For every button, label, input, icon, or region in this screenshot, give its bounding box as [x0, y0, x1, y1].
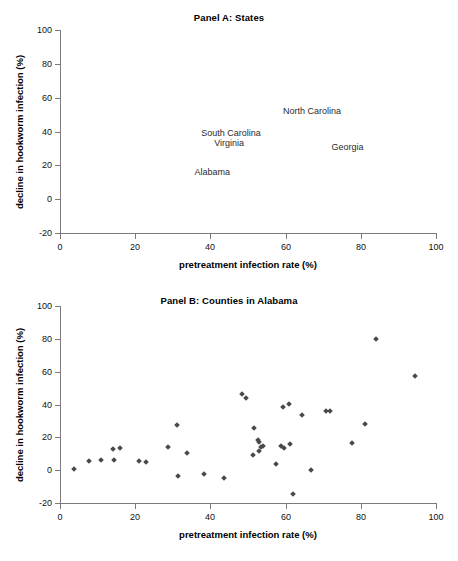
panel-b-y-axis-line — [60, 306, 61, 504]
panel-a-y-tick — [55, 98, 60, 99]
panel-a-x-tick — [286, 234, 287, 239]
scatter-point — [281, 445, 287, 451]
panel-a-plot-area: -20020406080100020406080100North Carolin… — [60, 30, 436, 233]
scatter-point — [221, 475, 227, 481]
scatter-point — [290, 492, 296, 498]
panel-b-y-tick — [55, 405, 60, 406]
scatter-point — [280, 404, 286, 410]
panel-b-x-tick-label: 20 — [130, 512, 140, 522]
panel-a-x-axis-line — [60, 233, 437, 234]
scatter-point — [273, 462, 279, 468]
scatter-point — [176, 474, 182, 480]
panel-b-x-tick — [361, 504, 362, 509]
scatter-point — [299, 412, 305, 418]
state-label: South Carolina — [201, 128, 261, 138]
scatter-point — [201, 471, 207, 477]
scatter-point — [288, 441, 294, 447]
panel-b-x-tick — [286, 504, 287, 509]
scatter-point — [349, 440, 355, 446]
panel-b-y-tick-label: -20 — [12, 498, 52, 508]
panel-a-x-tick — [210, 234, 211, 239]
scatter-point — [184, 450, 190, 456]
panel-b-y-axis-title: decline in hookworm infection (%) — [14, 327, 25, 481]
panel-b-x-axis-title: pretreatment infection rate (%) — [179, 529, 317, 540]
panel-a-x-tick — [135, 234, 136, 239]
panel-a-x-tick-label: 20 — [130, 242, 140, 252]
panel-b-y-tick — [55, 372, 60, 373]
state-label: Georgia — [332, 142, 364, 152]
panel-b-y-tick — [55, 306, 60, 307]
panel-a-y-tick — [55, 64, 60, 65]
scatter-point — [412, 373, 418, 379]
panel-b-x-tick-label: 0 — [57, 512, 62, 522]
scatter-point — [117, 445, 123, 451]
panel-b-x-tick-label: 60 — [281, 512, 291, 522]
panel-b-x-tick — [135, 504, 136, 509]
scatter-point — [287, 401, 293, 407]
hookworm-figure: Panel A: States -20020406080100020406080… — [0, 0, 458, 561]
scatter-point — [99, 457, 105, 463]
panel-a-y-tick-label: -20 — [12, 228, 52, 238]
scatter-point — [373, 336, 379, 342]
panel-a-y-tick-label: 100 — [12, 25, 52, 35]
panel-b-plot-area: -20020406080100020406080100 — [60, 306, 436, 503]
panel-b: Panel B: Counties in Alabama -2002040608… — [0, 285, 458, 561]
panel-a-y-tick — [55, 132, 60, 133]
scatter-point — [165, 444, 171, 450]
panel-b-x-tick-label: 40 — [205, 512, 215, 522]
panel-b-x-axis-line — [60, 503, 437, 504]
scatter-point — [251, 425, 257, 431]
panel-a-y-axis-line — [60, 30, 61, 234]
panel-a-x-tick — [436, 234, 437, 239]
panel-a-x-tick — [361, 234, 362, 239]
panel-b-y-tick-label: 100 — [12, 301, 52, 311]
scatter-point — [111, 457, 117, 463]
panel-a-x-axis-title: pretreatment infection rate (%) — [179, 259, 317, 270]
panel-b-y-tick — [55, 339, 60, 340]
scatter-point — [174, 422, 180, 428]
scatter-point — [244, 395, 250, 401]
scatter-point — [308, 467, 314, 473]
panel-b-x-tick — [210, 504, 211, 509]
panel-a-y-axis-title: decline in hookworm infection (%) — [14, 54, 25, 208]
panel-b-title: Panel B: Counties in Alabama — [0, 295, 458, 306]
scatter-point — [250, 452, 256, 458]
scatter-point — [71, 466, 77, 472]
panel-b-y-tick — [55, 470, 60, 471]
panel-a-x-tick-label: 0 — [57, 242, 62, 252]
scatter-point — [143, 460, 149, 466]
panel-a-x-tick-label: 60 — [281, 242, 291, 252]
panel-b-x-tick — [436, 504, 437, 509]
state-label: Virginia — [214, 138, 244, 148]
scatter-point — [110, 446, 116, 452]
panel-a-x-tick-label: 80 — [356, 242, 366, 252]
panel-a-x-tick-label: 100 — [428, 242, 443, 252]
state-label: Alabama — [195, 167, 231, 177]
panel-b-y-tick — [55, 437, 60, 438]
panel-a-y-tick — [55, 199, 60, 200]
panel-b-x-tick — [60, 504, 61, 509]
scatter-point — [327, 408, 333, 414]
panel-b-x-tick-label: 100 — [428, 512, 443, 522]
scatter-point — [86, 458, 92, 464]
panel-b-x-tick-label: 80 — [356, 512, 366, 522]
panel-a-x-tick — [60, 234, 61, 239]
scatter-point — [362, 421, 368, 427]
panel-a-title: Panel A: States — [0, 12, 458, 23]
panel-a-x-tick-label: 40 — [205, 242, 215, 252]
panel-a: Panel A: States -20020406080100020406080… — [0, 0, 458, 280]
panel-a-y-tick — [55, 165, 60, 166]
panel-a-y-tick — [55, 30, 60, 31]
scatter-point — [136, 458, 142, 464]
state-label: North Carolina — [283, 106, 341, 116]
